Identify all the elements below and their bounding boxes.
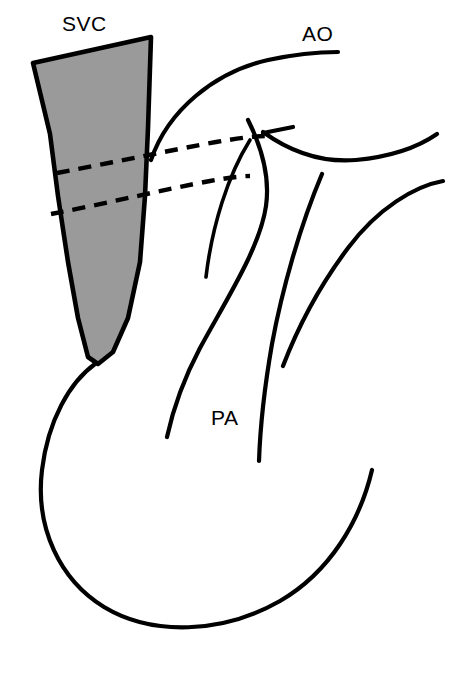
label-pa: PA xyxy=(211,406,238,429)
label-svc: SVC xyxy=(62,12,107,35)
label-ao: AO xyxy=(302,22,333,45)
anatomy-illustration: SVC AO PA xyxy=(0,0,460,685)
anatomy-diagram-root: SVC AO PA xyxy=(0,0,460,685)
